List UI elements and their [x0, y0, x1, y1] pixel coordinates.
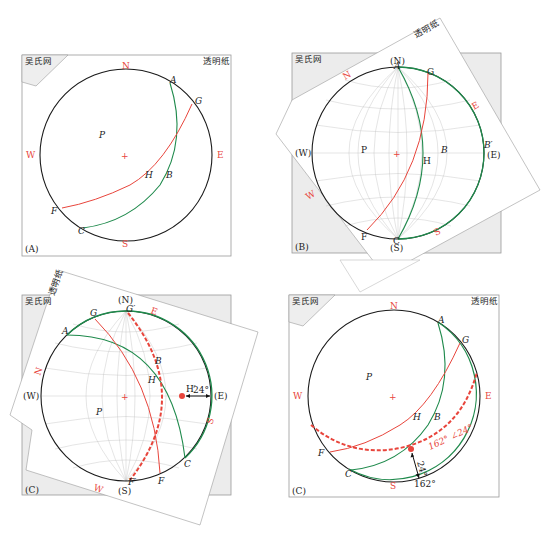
panel-tag: (B) [295, 242, 309, 252]
point-p: P [98, 130, 106, 140]
panel-b: 吴氏网 透明纸 (N) (S) (W) (E) N E S W + A G P … [276, 18, 540, 275]
tracing-paper-label: 透明纸 [203, 56, 230, 66]
east-label: E [485, 391, 492, 401]
panel-tag: (A) [25, 244, 39, 254]
point-c: C [78, 226, 85, 236]
panel-a: 吴氏网 透明纸 N S W E + A G P H B F C (A) [22, 55, 231, 256]
center-mark: + [389, 392, 397, 402]
point-a: A [393, 61, 401, 71]
point-b: B [440, 145, 448, 155]
point-a: A [437, 315, 445, 325]
point-f-prime: F′ [127, 477, 136, 487]
point-f: F [157, 476, 165, 486]
point-g-prime: G′ [126, 304, 135, 314]
net-label: 吴氏网 [25, 56, 52, 66]
point-p: P [361, 145, 367, 155]
point-a: A [169, 75, 177, 85]
net-south: (S) [118, 486, 131, 496]
point-f: F [50, 206, 58, 216]
point-h: H [147, 375, 156, 385]
net-label: 吴氏网 [25, 296, 52, 306]
south-label: S [390, 481, 396, 491]
south-label: S [122, 239, 128, 249]
point-b: B [165, 170, 173, 180]
pole-marker [408, 446, 414, 452]
point-h: H [412, 412, 421, 422]
point-c: C [345, 469, 352, 479]
point-g: G [427, 67, 434, 77]
paper-edge [340, 260, 420, 292]
point-f: F [317, 448, 325, 458]
point-a: A [61, 326, 69, 336]
north-label: N [122, 61, 130, 71]
angle-label: 24° [193, 385, 209, 395]
tracing-paper-label: 透明纸 [471, 296, 498, 306]
point-p: P [365, 372, 373, 382]
west-label: W [26, 150, 36, 160]
east-label: E [217, 150, 224, 160]
point-h: H [423, 156, 431, 166]
point-b-prime: B′ [483, 140, 493, 150]
net-label: 吴氏网 [292, 296, 319, 306]
center-mark: + [121, 151, 129, 161]
point-c: C [184, 459, 191, 469]
point-c: C [393, 236, 400, 246]
center-mark: + [121, 392, 129, 402]
point-g: G [195, 96, 202, 106]
trend-label: 162° [414, 479, 436, 489]
point-b: B [154, 356, 162, 366]
west-label: W [293, 391, 303, 401]
point-b: B [433, 412, 441, 422]
net-west: (W) [295, 148, 311, 158]
point-p: P [95, 407, 103, 417]
net-west: (W) [23, 391, 39, 401]
net-east: (E) [214, 391, 228, 401]
center-mark: + [393, 149, 401, 159]
panel-tag: (C) [25, 485, 39, 495]
point-h: H [144, 170, 153, 180]
north-label: N [390, 301, 398, 311]
panel-tag: (C) [292, 486, 306, 496]
panel-c-result: 吴氏网 透明纸 24° 162° 162° ∠24° N S W E + A G… [289, 260, 499, 497]
point-f: F [361, 232, 367, 242]
stereonet-figure: 吴氏网 透明纸 N S W E + A G P H B F C (A) 吴氏网 … [0, 0, 553, 539]
point-h-prime-marker [179, 393, 185, 399]
panel-c-rotation: 吴氏网 透明纸 H′ 24° (N) (S) (W) (E) N E S W +… [10, 268, 258, 525]
net-label: 吴氏网 [295, 54, 322, 64]
point-g: G [90, 308, 97, 318]
net-east: (E) [487, 150, 501, 160]
point-g: G [462, 335, 469, 345]
